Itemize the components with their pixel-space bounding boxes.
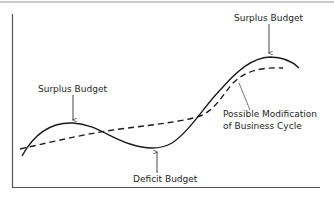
business-cycle-curve: [22, 57, 299, 156]
modification-label-line1: Possible Modification: [223, 109, 317, 119]
deficit-label: Deficit Budget: [133, 174, 198, 184]
surplus-top-label: Surplus Budget: [234, 13, 303, 23]
surplus-left-label: Surplus Budget: [38, 84, 107, 94]
business-cycle-diagram: Surplus Budget Surplus Budget Deficit Bu…: [0, 0, 334, 199]
modification-leader: [239, 83, 250, 110]
modification-label-line2: of Business Cycle: [223, 121, 302, 131]
